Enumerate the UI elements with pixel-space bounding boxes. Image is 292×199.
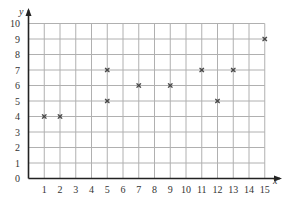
x-tick-label: 5 — [105, 184, 110, 195]
y-tick-label: 7 — [15, 65, 20, 76]
y-tick-label: 8 — [15, 49, 20, 60]
y-axis-label: y — [18, 6, 24, 17]
x-tick-label: 4 — [89, 184, 94, 195]
x-axis-label: x — [272, 175, 278, 186]
x-tick-label: 14 — [244, 184, 254, 195]
x-tick-label: 7 — [136, 184, 141, 195]
tick-labels: 123456789101112131415012345678910 — [10, 18, 270, 195]
x-tick-label: 2 — [58, 184, 63, 195]
x-tick-label: 9 — [168, 184, 173, 195]
x-tick-label: 15 — [260, 184, 270, 195]
data-point-marker-icon — [200, 68, 204, 72]
data-point-marker-icon — [105, 68, 109, 72]
y-tick-label: 0 — [15, 173, 20, 184]
data-point-marker-icon — [215, 99, 219, 103]
data-point-marker-icon — [42, 114, 46, 118]
x-tick-label: 12 — [213, 184, 223, 195]
data-point-marker-icon — [263, 37, 267, 41]
y-tick-label: 9 — [15, 34, 20, 45]
x-tick-label: 8 — [152, 184, 157, 195]
y-tick-label: 2 — [15, 142, 20, 153]
data-point-marker-icon — [58, 114, 62, 118]
data-point-marker-icon — [105, 99, 109, 103]
y-axis-arrow-icon — [26, 8, 32, 16]
data-point-marker-icon — [231, 68, 235, 72]
x-tick-label: 11 — [197, 184, 207, 195]
y-tick-label: 3 — [15, 127, 20, 138]
axes — [26, 8, 283, 182]
x-tick-label: 10 — [181, 184, 191, 195]
y-tick-label: 1 — [15, 158, 20, 169]
data-point-marker-icon — [168, 83, 172, 87]
y-tick-label: 5 — [15, 96, 20, 107]
y-tick-label: 6 — [15, 80, 20, 91]
grid-lines — [29, 24, 265, 179]
y-tick-label: 10 — [10, 18, 20, 29]
x-tick-label: 6 — [121, 184, 126, 195]
scatter-chart: 123456789101112131415012345678910 x y — [0, 0, 292, 199]
y-tick-label: 4 — [15, 111, 20, 122]
x-tick-label: 13 — [228, 184, 238, 195]
x-tick-label: 3 — [73, 184, 78, 195]
x-tick-label: 1 — [42, 184, 47, 195]
data-point-marker-icon — [137, 83, 141, 87]
